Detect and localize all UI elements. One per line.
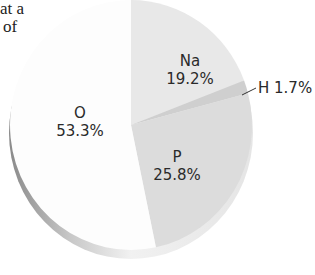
label-na-name: Na <box>180 52 200 70</box>
pie-chart: Na 19.2% H 1.7% P 25.8% O 53.3% <box>0 0 315 275</box>
pie-slices <box>10 0 252 250</box>
label-h: H 1.7% <box>258 79 312 97</box>
label-p-name: P <box>172 148 181 166</box>
label-p-value: 25.8% <box>153 166 201 184</box>
label-na-value: 19.2% <box>166 70 214 88</box>
label-o-name: O <box>74 104 86 122</box>
label-o-value: 53.3% <box>56 122 104 140</box>
